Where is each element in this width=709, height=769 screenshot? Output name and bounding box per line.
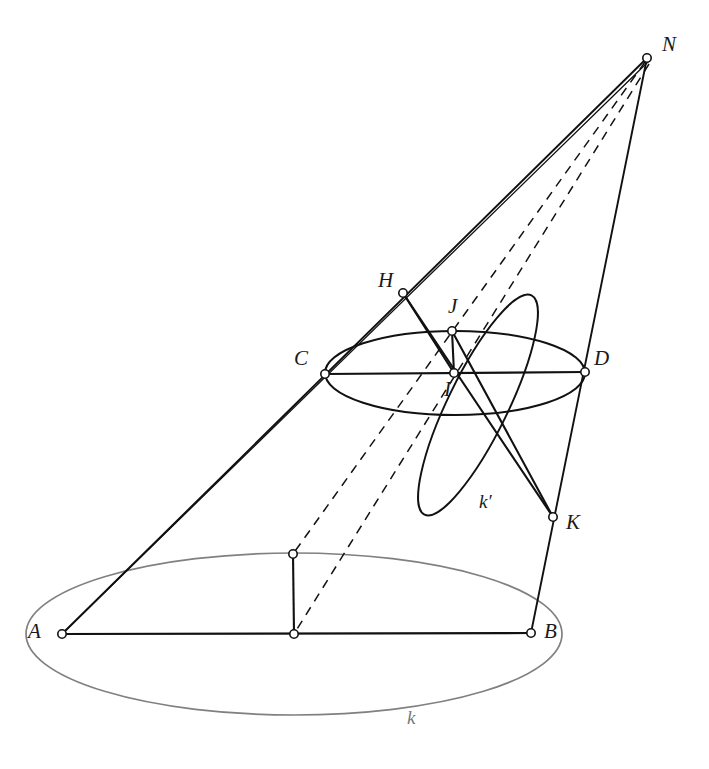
geometry-diagram [0, 0, 709, 769]
vertex-K[interactable] [549, 513, 557, 521]
base-radius-segment [293, 554, 294, 634]
vertex-D[interactable] [581, 368, 589, 376]
label-K: K [566, 512, 580, 533]
label-B: B [544, 621, 557, 642]
vertex-J[interactable] [448, 327, 456, 335]
label-I: I [444, 379, 451, 400]
label-k: k [407, 708, 415, 727]
vertex-A[interactable] [58, 630, 66, 638]
vertex-N[interactable] [643, 54, 651, 62]
label-D: D [594, 348, 609, 369]
vertex-C[interactable] [321, 370, 329, 378]
edge-right [531, 58, 647, 633]
segment-j-k [452, 331, 553, 517]
vertex-I[interactable] [450, 369, 458, 377]
label-H: H [378, 270, 393, 291]
construction-segments [403, 293, 553, 517]
label-J: J [448, 296, 457, 317]
label-C: C [294, 348, 308, 369]
segment-h-k [403, 293, 553, 517]
edge-left-inner [62, 60, 650, 634]
vertex-B[interactable] [527, 629, 535, 637]
vertex-base-center[interactable] [290, 630, 298, 638]
label-N: N [662, 34, 676, 55]
vertex-base-top[interactable] [289, 550, 297, 558]
vertex-H[interactable] [399, 289, 407, 297]
label-k-prime: k′ [479, 492, 492, 511]
label-A: A [28, 621, 41, 642]
figure-canvas: N H J I C D K A B k k′ [0, 0, 709, 769]
